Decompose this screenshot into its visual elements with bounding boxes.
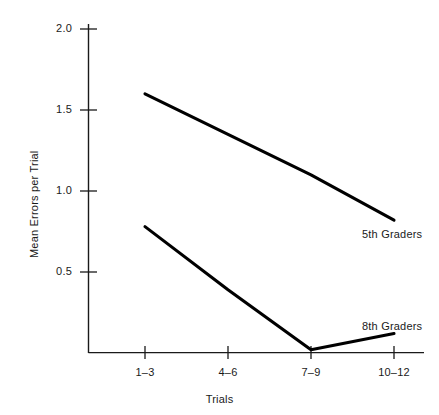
x-tick-label-4-6: 4–6 — [188, 366, 268, 378]
chart-plot-area — [0, 0, 439, 415]
x-axis-title: Trials — [0, 393, 439, 405]
x-tick-label-1-3: 1–3 — [105, 366, 185, 378]
chart-container: 2.0 1.5 1.0 0.5 1–3 4–6 7–9 10–12 Mean E… — [0, 0, 439, 415]
x-tick-label-7-9: 7–9 — [271, 366, 351, 378]
series-label-8th-graders: 8th Graders — [362, 320, 422, 332]
y-tick-label-2.0: 2.0 — [28, 22, 72, 34]
y-tick-label-1.5: 1.5 — [28, 103, 72, 115]
y-axis-title: Mean Errors per Trial — [28, 150, 40, 258]
x-tick-label-10-12: 10–12 — [354, 366, 434, 378]
y-tick-label-0.5: 0.5 — [28, 265, 72, 277]
series-label-5th-graders: 5th Graders — [362, 228, 422, 240]
series-line-5th-graders — [145, 94, 394, 220]
series-line-8th-graders — [145, 227, 394, 350]
